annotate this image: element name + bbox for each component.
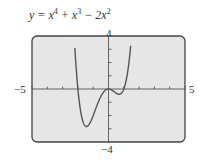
- plot-area: [0, 0, 201, 162]
